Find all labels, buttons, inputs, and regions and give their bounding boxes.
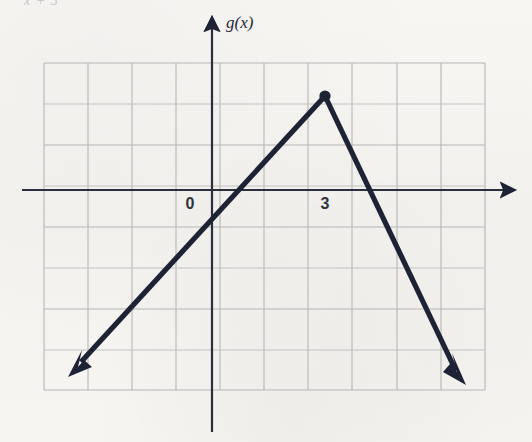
grid-lines [44, 63, 485, 390]
function-curve-g [68, 90, 466, 385]
tick-label-zero: 0 [186, 195, 195, 212]
coordinate-plane: 0 3 g(x) [0, 0, 532, 442]
y-axis-label: g(x) [226, 13, 254, 32]
axes [22, 28, 504, 432]
vertex-point [319, 90, 330, 101]
tick-label-three: 3 [321, 195, 330, 212]
graph-figure: x + 3 [0, 0, 532, 442]
